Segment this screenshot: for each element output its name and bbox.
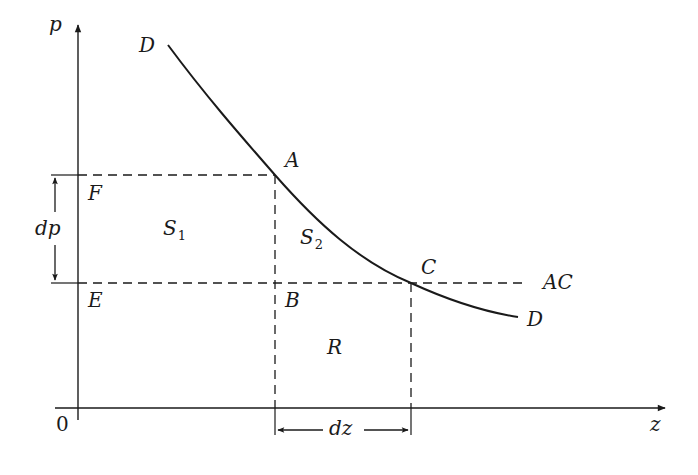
demand-curve	[168, 45, 518, 317]
point-a-label: A	[285, 150, 299, 170]
region-s1-base: S	[163, 216, 177, 240]
y-axis-label: p	[49, 14, 62, 34]
point-b-label: B	[285, 290, 300, 310]
average-cost-label: AC	[543, 272, 573, 292]
point-f-label: F	[88, 183, 102, 203]
region-r-label: R	[327, 337, 342, 357]
curve-label-start: D	[139, 35, 155, 55]
region-s1-subscript: 1	[178, 228, 186, 243]
region-s1-label: S1	[163, 218, 186, 238]
curve-label-end: D	[527, 309, 543, 329]
point-e-label: E	[88, 290, 103, 310]
region-s2-base: S	[300, 225, 314, 249]
dz-label: dz	[329, 418, 352, 438]
guide-lines	[78, 175, 527, 408]
origin-label: 0	[56, 414, 69, 434]
x-axis-label: z	[650, 414, 661, 434]
region-s2-label: S2	[300, 227, 323, 247]
axes	[55, 25, 665, 420]
demand-curve-diagram	[0, 0, 698, 475]
region-s2-subscript: 2	[315, 237, 323, 252]
point-c-label: C	[421, 257, 436, 277]
dp-label: dp	[35, 218, 61, 238]
